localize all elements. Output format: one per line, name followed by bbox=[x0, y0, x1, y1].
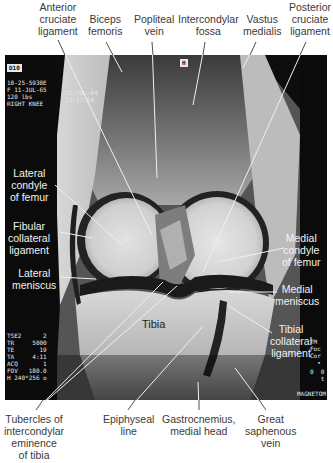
label-anterior-cruciate-ligament: Anterior cruciate ligament bbox=[38, 1, 78, 37]
label-tibial-collateral-ligament: Tibial collateral ligament bbox=[270, 323, 312, 359]
label-epiphyseal-line: Epiphyseal line bbox=[103, 413, 154, 437]
label-lateral-condyle-of-femur: Lateral condyle of femur bbox=[10, 167, 49, 203]
label-biceps-femoris: Biceps femoris bbox=[88, 13, 122, 37]
machine-name: MAGNETOM bbox=[297, 390, 326, 397]
label-intercondylar-fossa: Intercondylar fossa bbox=[178, 13, 239, 37]
label-popliteal-vein: Popliteal vein bbox=[134, 13, 174, 37]
label-medial-meniscus: Medial meniscus bbox=[275, 283, 319, 307]
label-posterior-cruciate-ligament: Posterior cruciate ligament bbox=[289, 1, 331, 37]
label-gastrocnemius-medial-head: Gastrocnemius, medial head bbox=[162, 413, 236, 437]
label-tubercles-of-intercondylar-eminence: Tubercles of intercondylar eminence of t… bbox=[4, 413, 64, 461]
scan-date: 11-JUL-94 13:17:54 bbox=[65, 89, 98, 103]
scan-parameters: TSE2 2 TR 5000 TE 19 TA 4:11 ACQ 1 FOV 1… bbox=[7, 332, 47, 381]
series-tag: D10 bbox=[7, 64, 22, 72]
label-fibular-collateral-ligament: Fibular collateral ligament bbox=[8, 220, 50, 256]
label-tibia: Tibia bbox=[142, 318, 165, 330]
label-vastus-medialis: Vastus medialis bbox=[243, 13, 282, 37]
patient-info: 10-25-5930E F 11-JUL-65 120 lbs RIGHT KN… bbox=[7, 79, 47, 107]
label-great-saphenous-vein: Great saphenous vein bbox=[245, 413, 296, 449]
label-medial-condyle-of-femur: Medial condyle of femur bbox=[282, 232, 321, 268]
right-values: 0 0 t bbox=[310, 368, 324, 382]
label-lateral-meniscus: Lateral meniscus bbox=[12, 267, 56, 291]
orientation-tag: H bbox=[180, 59, 188, 67]
